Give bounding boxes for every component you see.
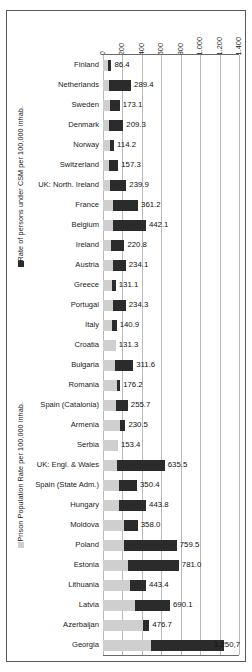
bar-row: Bulgaria311.6 — [103, 360, 239, 371]
legend-item-ppr: Prison Population Rate per 100,000 inhab… — [8, 402, 34, 551]
bar-value-label: 350.4 — [140, 481, 160, 489]
legend-swatch-csm-icon — [18, 261, 24, 267]
bar-row: Poland759.5 — [103, 540, 239, 551]
bar-segment-prison-population — [103, 440, 118, 451]
legend-swatch-ppr-icon — [18, 542, 24, 548]
bar-segment-csm — [128, 560, 179, 571]
bar-segment-csm — [143, 620, 149, 631]
chart-root: Rate of persons under CSM per 100,000 in… — [0, 0, 252, 672]
bar-value-label: 131.1 — [119, 281, 139, 289]
bar-segment-prison-population — [103, 620, 143, 631]
bar-value-label: 176.2 — [123, 381, 143, 389]
bar-row: Serbia153.4 — [103, 440, 239, 451]
bar-value-label: 690.1 — [173, 601, 193, 609]
bar-value-label: 209.3 — [126, 121, 146, 129]
bar-segment-csm — [113, 260, 126, 271]
bar-segment-csm — [111, 240, 124, 251]
x-axis-bottom-line — [103, 655, 239, 656]
bar-segment-prison-population — [103, 580, 130, 591]
category-label: Netherlands — [58, 81, 99, 89]
bar-segment-csm — [113, 220, 146, 231]
category-label: Denmark — [68, 121, 99, 129]
bar-segment-csm — [130, 580, 146, 591]
bar-segment-prison-population — [103, 200, 113, 211]
bar-segment-csm — [110, 100, 120, 111]
category-label: Azerbaijan — [63, 621, 99, 629]
category-label: France — [75, 201, 99, 209]
category-label: Lithuania — [68, 581, 99, 589]
bar-row: Italy140.9 — [103, 320, 239, 331]
bar-row: Denmark209.3 — [103, 120, 239, 131]
bar-segment-csm — [116, 400, 128, 411]
category-label: Austria — [75, 261, 99, 269]
x-axis-tick-label: 1.000 — [196, 37, 203, 56]
bar-segment-csm — [124, 520, 138, 531]
bar-segment-prison-population — [103, 360, 115, 371]
category-label: Bulgaria — [71, 361, 99, 369]
gridline — [239, 55, 240, 655]
category-label: Georgia — [72, 641, 99, 649]
bar-segment-prison-population — [103, 320, 112, 331]
bar-segment-prison-population — [103, 260, 113, 271]
category-label: Ireland — [76, 241, 99, 249]
bar-row: Norway114.2 — [103, 140, 239, 151]
bar-segment-csm — [119, 500, 146, 511]
category-label: Latvia — [79, 601, 99, 609]
bar-segment-csm — [109, 160, 118, 171]
legend-label-ppr: Prison Population Rate per 100,000 inhab… — [17, 402, 24, 542]
bar-segment-csm — [108, 60, 111, 71]
bar-segment-prison-population — [103, 340, 116, 351]
category-label: Romania — [69, 381, 99, 389]
bar-value-label: 759.5 — [180, 541, 200, 549]
category-label: Italy — [85, 321, 99, 329]
bar-value-label: 131.3 — [119, 341, 139, 349]
bar-row: Netherlands289.4 — [103, 80, 239, 91]
bar-value-label: 442.1 — [149, 221, 169, 229]
bar-row: Ireland220.8 — [103, 240, 239, 251]
bar-value-label: 635.5 — [168, 461, 188, 469]
x-axis-tick-labels: 02004006008001.0001.2001.400 — [103, 18, 239, 55]
category-label: Belgium — [72, 221, 99, 229]
bar-row: Sweden173.1 — [103, 100, 239, 111]
bar-value-label: 443.8 — [149, 501, 169, 509]
category-label: Spain (State Adm.) — [35, 481, 99, 489]
bar-segment-prison-population — [103, 140, 110, 151]
category-label: Poland — [75, 541, 99, 549]
bar-segment-prison-population — [103, 560, 128, 571]
bar-segment-prison-population — [103, 240, 111, 251]
bar-value-label: 153.4 — [121, 441, 141, 449]
bar-row: Greece131.1 — [103, 280, 239, 291]
bar-value-label: 173.1 — [123, 101, 143, 109]
bar-value-label: 443.4 — [149, 581, 169, 589]
bar-segment-prison-population — [103, 480, 119, 491]
category-label: UK: Engl. & Wales — [37, 461, 99, 469]
bar-segment-csm — [110, 180, 126, 191]
bar-segment-prison-population — [103, 460, 117, 471]
bar-segment-prison-population — [103, 600, 135, 611]
bar-row: Spain (Catalonia)255.7 — [103, 400, 239, 411]
bar-value-label: 255.7 — [131, 401, 151, 409]
bar-value-label: 220.8 — [127, 241, 147, 249]
category-label: Switzerland — [60, 161, 99, 169]
category-label: Croatia — [75, 341, 99, 349]
bar-value-label: 289.4 — [134, 81, 154, 89]
bar-segment-csm — [113, 200, 139, 211]
bar-row: Austria234.1 — [103, 260, 239, 271]
bar-row: Spain (State Adm.)350.4 — [103, 480, 239, 491]
bar-value-label: 1.250,7 — [214, 641, 240, 649]
bar-segment-csm — [119, 480, 137, 491]
bar-segment-prison-population — [103, 540, 124, 551]
category-label: Greece — [74, 281, 99, 289]
bar-segment-csm — [109, 120, 123, 131]
category-label: Armenia — [71, 421, 99, 429]
category-label: Sweden — [72, 101, 99, 109]
bar-segment-prison-population — [103, 520, 124, 531]
bar-row: Belgium442.1 — [103, 220, 239, 231]
bar-segment-csm — [113, 300, 126, 311]
bar-row: UK: North. Ireland239.9 — [103, 180, 239, 191]
chart-legend: Rate of persons under CSM per 100,000 in… — [8, 10, 34, 662]
bar-row: Croatia131.3 — [103, 340, 239, 351]
bar-segment-prison-population — [103, 180, 110, 191]
category-label: Spain (Catalonia) — [40, 401, 99, 409]
bar-row: UK: Engl. & Wales635.5 — [103, 460, 239, 471]
